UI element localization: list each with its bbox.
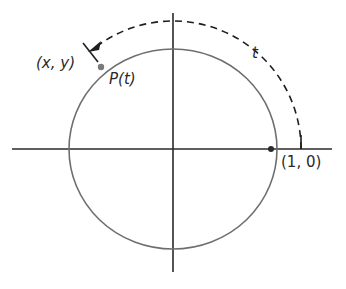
point-1-0 [268, 146, 274, 152]
point-p-t [98, 64, 104, 70]
label-point-coords: (x, y) [36, 56, 75, 71]
arrowhead-icon [88, 41, 101, 52]
label-point-name: P(t) [109, 72, 136, 87]
label-start-point: (1, 0) [281, 155, 321, 170]
label-arc-length: t [252, 46, 258, 61]
diagram-canvas [0, 0, 346, 289]
unit-circle-diagram: (x, y) P(t) t (1, 0) [0, 0, 346, 289]
